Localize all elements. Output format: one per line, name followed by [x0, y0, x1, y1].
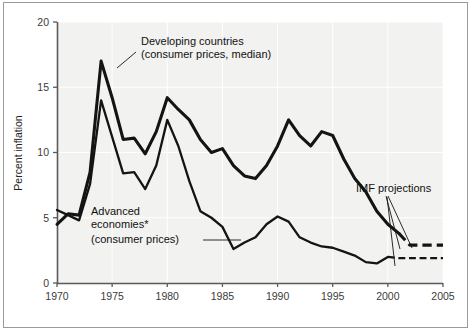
y-axis-tick-labels: 05101520: [37, 16, 49, 289]
advanced-annotation-line3: (consumer prices): [91, 233, 179, 245]
x-tick-label-2000: 2000: [376, 290, 400, 302]
y-tick-label-0: 0: [43, 277, 49, 289]
x-tick-label-1980: 1980: [156, 290, 180, 302]
x-tick-label-1975: 1975: [100, 290, 124, 302]
x-tick-label-1985: 1985: [211, 290, 235, 302]
inflation-chart-figure: 05101520 1970197519801985199019952000200…: [0, 0, 472, 332]
x-tick-label-1970: 1970: [45, 290, 69, 302]
x-tick-label-1990: 1990: [266, 290, 290, 302]
y-tick-label-15: 15: [37, 81, 49, 93]
advanced-annotation-line1: Advanced: [91, 205, 140, 217]
x-tick-label-1995: 1995: [321, 290, 345, 302]
developing-annotation-line1: Developing countries: [141, 35, 244, 47]
chart-canvas: 05101520 1970197519801985199019952000200…: [0, 0, 472, 332]
y-axis-ticks: [53, 22, 57, 283]
y-tick-label-20: 20: [37, 16, 49, 28]
imf-projections-label: IMF projections: [356, 182, 432, 194]
imf-projections-annotation: IMF projections: [356, 182, 432, 194]
y-tick-label-10: 10: [37, 146, 49, 158]
x-axis-tick-labels: 19701975198019851990199520002005: [45, 290, 455, 302]
x-tick-label-2005: 2005: [431, 290, 455, 302]
advanced-annotation-line2: economies*: [91, 218, 149, 230]
y-axis-title: Percent inflation: [12, 115, 24, 190]
y-tick-label-5: 5: [43, 212, 49, 224]
developing-annotation-line2: (consumer prices, median): [141, 48, 271, 60]
